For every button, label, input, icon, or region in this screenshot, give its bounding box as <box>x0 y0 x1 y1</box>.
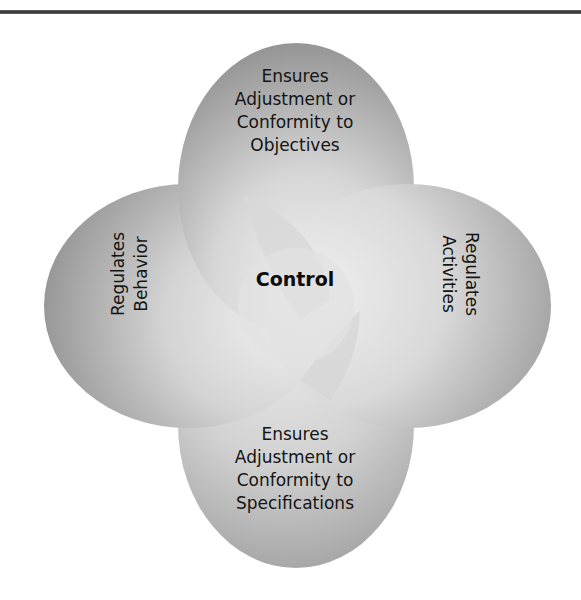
petal-bottom-label: Ensures Adjustment or Conformity to Spec… <box>180 423 410 515</box>
petal-bottom-line: Ensures <box>180 423 410 446</box>
petal-left-line: Regulates <box>107 199 130 349</box>
petal-left-line: Behavior <box>130 199 153 349</box>
petal-right-line: Activities <box>437 199 460 349</box>
petal-bottom-line: Specifications <box>180 492 410 515</box>
petal-bottom-line: Conformity to <box>180 469 410 492</box>
petal-right-line: Regulates <box>460 199 483 349</box>
petal-left-label: Regulates Behavior <box>107 199 153 349</box>
petal-top-line: Adjustment or <box>180 88 410 111</box>
center-label: Control <box>245 268 345 290</box>
petal-top-line: Objectives <box>180 134 410 157</box>
petal-top-line: Ensures <box>180 65 410 88</box>
petal-right-label: Regulates Activities <box>437 199 483 349</box>
petal-top-line: Conformity to <box>180 111 410 134</box>
center-hub <box>238 248 354 364</box>
petal-bottom-line: Adjustment or <box>180 446 410 469</box>
petal-top-label: Ensures Adjustment or Conformity to Obje… <box>180 65 410 157</box>
